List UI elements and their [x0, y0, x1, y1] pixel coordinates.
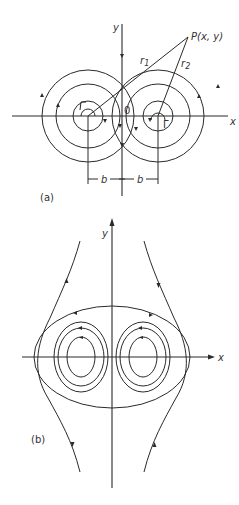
- circulation-label: Γ: [163, 119, 169, 130]
- panel-b-caption: (b): [31, 434, 45, 445]
- streamline-arrow-icon: [56, 103, 60, 107]
- y-axis-label-b: y: [101, 228, 109, 239]
- origin-label: 0: [124, 105, 130, 116]
- y-axis-arrow-icon: [110, 218, 115, 226]
- panel-a-caption: (a): [40, 192, 54, 203]
- panel-a: b b y x 0 P(x, y) r1 r2 Γ (a): [12, 22, 236, 203]
- x-axis-label-b: x: [217, 352, 224, 363]
- streamline-arrow-icon: [78, 326, 82, 330]
- streamline-arrow-icon: [65, 278, 69, 283]
- streamline-arrow-icon: [79, 336, 83, 339]
- streamline-arrow-icon: [139, 336, 143, 339]
- x-axis-arrow-icon: [208, 355, 215, 360]
- point-p-label: P(x, y): [191, 31, 223, 42]
- panel-b: y x (b): [22, 218, 224, 488]
- streamline-arrow-icon: [40, 93, 44, 97]
- streamline-arrow-icon: [134, 127, 138, 131]
- streamline-arrow-icon: [197, 94, 201, 98]
- streamline-arrow-icon: [216, 84, 220, 88]
- y-axis-label-a: y: [112, 22, 120, 33]
- b-left-label: b: [101, 174, 107, 185]
- x-axis-label-a: x: [229, 116, 236, 127]
- vortex-pair-figure: b b y x 0 P(x, y) r1 r2 Γ (a): [0, 0, 239, 505]
- streamline-arrow-icon: [138, 326, 142, 330]
- b-dimension: b b: [88, 174, 158, 185]
- b-right-label: b: [137, 174, 143, 185]
- r1-label: r1: [140, 55, 149, 68]
- streamline-arrow-icon: [103, 119, 107, 123]
- r2-label: r2: [181, 58, 190, 71]
- y-axis-arrow-icon: [120, 54, 124, 58]
